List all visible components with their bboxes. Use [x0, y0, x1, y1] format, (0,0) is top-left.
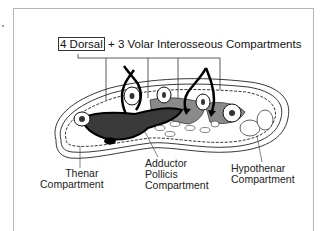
hand-cross-section-diagram	[0, 0, 325, 231]
hypothenar-compartment-label: Hypothenar Compartment	[231, 163, 295, 185]
adductor-pollicis-label: Adductor Pollicis Compartment	[145, 158, 209, 191]
diagram-title: 4 Dorsal + 3 Volar Interosseous Compartm…	[58, 39, 301, 50]
dorsal-boxed-label: 4 Dorsal	[58, 37, 105, 51]
thenar-line-2: Compartment	[40, 179, 104, 190]
title-rest: + 3 Volar Interosseous Compartments	[108, 38, 301, 50]
small-black-structure	[104, 138, 116, 145]
hypothenar-muscles	[240, 110, 273, 136]
thenar-compartment-label: Thenar Compartment	[40, 168, 104, 190]
adductor-line-3: Compartment	[145, 180, 209, 191]
hypothenar-line-2: Compartment	[231, 174, 295, 185]
